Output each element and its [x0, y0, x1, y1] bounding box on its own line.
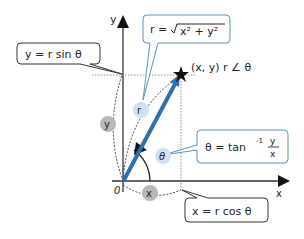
radius-vector	[124, 84, 175, 180]
r-equation-radicand: x² + y²	[180, 25, 218, 38]
x-equation-text: x = r cos θ	[192, 205, 252, 218]
theta-badge-label: θ	[159, 151, 165, 162]
y-axis-arrow-icon	[117, 15, 129, 28]
point-label: (x, y) r ∠ θ	[191, 61, 251, 74]
theta-equation-superscript: -1	[256, 137, 263, 145]
diagram-canvas: y x 0 (x, y) r ∠ θ y = r sin θ r = x² + …	[0, 0, 304, 239]
r-equation-prefix: r =	[150, 23, 167, 36]
y-axis-label: y	[110, 13, 117, 26]
theta-fraction-denominator: x	[270, 149, 276, 159]
x-badge-label: x	[146, 188, 152, 199]
y-badge-label: y	[104, 119, 110, 130]
x-axis-arrow-icon	[278, 175, 290, 187]
y-equation-text: y = r sin θ	[25, 48, 82, 61]
theta-equation-prefix: θ = tan	[205, 141, 246, 154]
polar-coordinate-diagram: y x 0 (x, y) r ∠ θ y = r sin θ r = x² + …	[0, 0, 304, 239]
origin-label: 0	[114, 185, 120, 196]
theta-fraction-numerator: y	[270, 136, 276, 146]
x-axis-label: x	[276, 188, 282, 199]
